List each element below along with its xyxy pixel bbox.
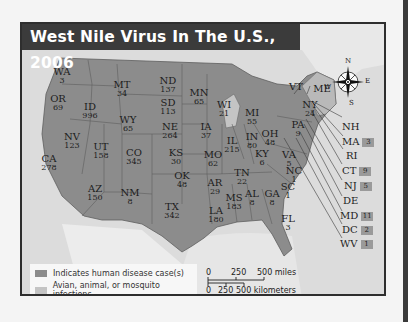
state-co: CO345 (126, 148, 142, 166)
state-wi: WI21 (217, 100, 231, 118)
state-ia: IA37 (200, 122, 211, 140)
human-case-swatch (35, 270, 47, 277)
state-ga: GA8 (264, 189, 279, 207)
cases-badge: 3 (362, 138, 374, 147)
state-ca: CA278 (41, 154, 56, 172)
state-pa: PA9 (291, 120, 304, 138)
state-id: ID996 (82, 102, 97, 120)
state-ks: KS30 (169, 148, 183, 166)
callout-nh: NH (342, 121, 359, 132)
cases-badge: 11 (361, 212, 373, 221)
state-mn: MN65 (190, 88, 209, 106)
state-wy: WY65 (120, 115, 137, 133)
state-sd: SD113 (160, 98, 175, 116)
state-ne: NE264 (162, 122, 178, 140)
map-title: West Nile Virus In The U.S., 2006 (22, 24, 300, 50)
state-ok: OK48 (174, 171, 190, 189)
map-frame: West Nile Virus In The U.S., 2006 N E S … (20, 22, 386, 296)
callout-md: MD11 (340, 210, 373, 221)
legend-item-human: Indicates human disease case(s) (35, 269, 184, 278)
state-fl: FL3 (281, 214, 295, 232)
state-al: AL8 (245, 189, 259, 207)
legend-item-avian: Avian, animal, or mosquito infections (35, 281, 197, 296)
map-legend: Indicates human disease case(s) Avian, a… (30, 264, 197, 294)
cases-badge: 5 (360, 182, 372, 191)
cases-badge: 1 (361, 240, 373, 249)
state-nd: ND137 (160, 76, 177, 94)
callout-ri: RI (346, 150, 357, 161)
compass-e-label: E (365, 77, 370, 85)
state-la: LA180 (208, 206, 223, 224)
state-nc: NC1 (286, 166, 302, 184)
state-il: IL215 (224, 136, 239, 154)
callout-nj: NJ5 (344, 180, 372, 191)
state-ny: NY24 (302, 100, 317, 118)
state-nv: NV123 (64, 132, 80, 150)
state-nm: NM8 (121, 188, 140, 206)
page-edge (403, 0, 408, 322)
avian-swatch (35, 287, 47, 294)
state-mo: MO62 (204, 150, 222, 168)
state-ar: AR29 (208, 178, 223, 196)
state-tn: TN22 (234, 168, 249, 186)
callout-wv: WV1 (340, 238, 373, 249)
callout-ct: CT9 (342, 165, 371, 176)
state-va: VA5 (282, 150, 296, 168)
state-tx: TX342 (164, 202, 179, 220)
state-or: OR69 (50, 94, 66, 112)
callout-dc: DC2 (342, 224, 373, 235)
state-mi: MI55 (245, 108, 259, 126)
state-ut: UT158 (93, 142, 108, 160)
state-me: ME (313, 84, 331, 94)
compass-s-label: S (349, 99, 354, 107)
state-sc: SC1 (281, 182, 296, 200)
state-ms: MS183 (225, 193, 242, 211)
state-mt: MT34 (114, 80, 131, 98)
compass-n-label: N (345, 57, 351, 65)
callout-de: DE (343, 195, 358, 206)
state-wa: WA3 (53, 67, 70, 85)
state-az: AZ150 (87, 184, 102, 202)
cases-badge: 9 (359, 167, 371, 176)
cases-badge: 2 (361, 226, 373, 235)
callout-ma: MA3 (342, 136, 374, 147)
scale-bar: 0 250 500 miles 0 250 500 kilometers (203, 268, 303, 296)
state-oh: OH48 (262, 129, 279, 147)
state-vt: VT (289, 82, 303, 92)
state-ky: KY6 (255, 149, 269, 167)
